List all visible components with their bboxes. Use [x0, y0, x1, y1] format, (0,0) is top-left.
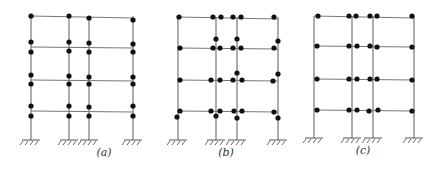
frames-diagram	[0, 0, 442, 169]
plastic-hinge-icon	[234, 36, 239, 41]
plastic-hinge-icon	[275, 38, 280, 43]
plastic-hinge-icon	[271, 45, 276, 50]
plastic-hinge-icon	[270, 78, 275, 83]
plastic-hinge-icon	[86, 113, 91, 118]
plastic-hinge-icon	[208, 108, 213, 113]
plastic-hinge-icon	[130, 103, 135, 108]
plastic-hinge-icon	[86, 15, 91, 20]
plastic-hinge-icon	[130, 113, 135, 118]
plastic-hinge-icon	[230, 14, 235, 19]
frame-label-b: (b)	[218, 146, 234, 159]
plastic-hinge-icon	[230, 45, 235, 50]
plastic-hinge-icon	[409, 77, 414, 82]
plastic-hinge-icon	[367, 43, 372, 48]
beam	[178, 80, 278, 81]
plastic-hinge-icon	[28, 113, 33, 118]
beam	[314, 46, 414, 47]
plastic-hinge-icon	[374, 44, 379, 49]
plastic-hinge-icon	[374, 76, 379, 81]
plastic-hinge-icon	[130, 49, 135, 54]
plastic-hinge-icon	[314, 107, 319, 112]
plastic-hinge-icon	[217, 77, 222, 82]
plastic-hinge-icon	[86, 40, 91, 45]
beam	[31, 80, 133, 81]
plastic-hinge-icon	[86, 81, 91, 86]
plastic-hinge-icon	[130, 74, 135, 79]
frame-c	[303, 13, 423, 143]
plastic-hinge-icon	[234, 115, 239, 120]
frame-label-c: (c)	[356, 144, 371, 157]
beam	[314, 110, 414, 111]
plastic-hinge-icon	[231, 108, 236, 113]
plastic-hinge-icon	[130, 17, 135, 22]
plastic-hinge-icon	[230, 77, 235, 82]
plastic-hinge-icon	[238, 14, 243, 19]
plastic-hinge-icon	[28, 103, 33, 108]
plastic-hinge-icon	[314, 43, 319, 48]
plastic-hinge-icon	[409, 108, 414, 113]
beam	[178, 17, 278, 19]
plastic-hinge-icon	[28, 72, 33, 77]
beam	[314, 79, 414, 80]
frame-a	[20, 13, 142, 145]
plastic-hinge-icon	[367, 13, 372, 18]
plastic-hinge-icon	[275, 115, 280, 120]
plastic-hinge-icon	[130, 81, 135, 86]
plastic-hinge-icon	[271, 14, 276, 19]
plastic-hinge-icon	[177, 77, 182, 82]
plastic-hinge-icon	[176, 14, 181, 19]
plastic-hinge-icon	[218, 14, 223, 19]
beam	[31, 47, 133, 48]
plastic-hinge-icon	[315, 13, 320, 18]
plastic-hinge-icon	[346, 13, 351, 18]
plastic-hinge-icon	[354, 107, 359, 112]
plastic-hinge-icon	[346, 107, 351, 112]
plastic-hinge-icon	[346, 43, 351, 48]
beam	[31, 111, 133, 112]
plastic-hinge-icon	[208, 77, 213, 82]
plastic-hinge-icon	[275, 71, 280, 76]
plastic-hinge-icon	[217, 45, 222, 50]
plastic-hinge-icon	[367, 76, 372, 81]
plastic-hinge-icon	[354, 76, 359, 81]
plastic-hinge-icon	[346, 76, 351, 81]
plastic-hinge-icon	[366, 108, 371, 113]
plastic-hinge-icon	[177, 108, 182, 113]
plastic-hinge-icon	[213, 113, 218, 118]
plastic-hinge-icon	[213, 36, 218, 41]
plastic-hinge-icon	[66, 73, 71, 78]
plastic-hinge-icon	[210, 45, 215, 50]
plastic-hinge-icon	[66, 113, 71, 118]
beam	[314, 16, 414, 18]
plastic-hinge-icon	[353, 13, 358, 18]
plastic-hinge-icon	[86, 104, 91, 109]
plastic-hinge-icon	[234, 70, 239, 75]
plastic-hinge-icon	[409, 13, 414, 18]
plastic-hinge-icon	[174, 114, 179, 119]
plastic-hinge-icon	[66, 103, 71, 108]
plastic-hinge-icon	[239, 77, 244, 82]
plastic-hinge-icon	[375, 107, 380, 112]
frame-b	[167, 14, 287, 145]
plastic-hinge-icon	[28, 49, 33, 54]
beam	[178, 111, 278, 112]
plastic-hinge-icon	[177, 45, 182, 50]
plastic-hinge-icon	[66, 13, 71, 18]
frame-label-a: (a)	[96, 146, 111, 159]
plastic-hinge-icon	[86, 74, 91, 79]
plastic-hinge-icon	[239, 108, 244, 113]
plastic-hinge-icon	[28, 13, 33, 18]
plastic-hinge-icon	[409, 44, 414, 49]
plastic-hinge-icon	[28, 39, 33, 44]
plastic-hinge-icon	[314, 76, 319, 81]
beam	[31, 16, 133, 18]
plastic-hinge-icon	[66, 39, 71, 44]
plastic-hinge-icon	[354, 43, 359, 48]
plastic-hinge-icon	[217, 108, 222, 113]
plastic-hinge-icon	[86, 49, 91, 54]
plastic-hinge-icon	[66, 81, 71, 86]
plastic-hinge-icon	[374, 13, 379, 18]
plastic-hinge-icon	[210, 14, 215, 19]
plastic-hinge-icon	[238, 45, 243, 50]
plastic-hinge-icon	[130, 41, 135, 46]
